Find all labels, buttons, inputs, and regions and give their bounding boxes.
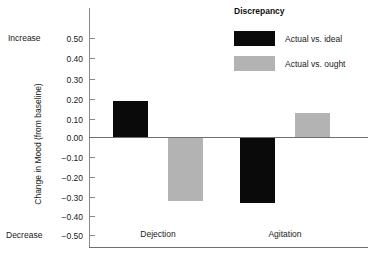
y-tick-mark-6 [90, 157, 95, 158]
x-category-label-dejection: Dejection [128, 229, 188, 239]
y-tick-label-1: 0.40 [49, 55, 83, 64]
legend-title: Discrepancy [234, 6, 285, 16]
zero-baseline [89, 137, 368, 138]
y-tick-label-8: −0.30 [49, 194, 83, 203]
bar-dejection-actual-vs-ought [168, 138, 203, 201]
mood-discrepancy-bar-chart: 0.50 0.40 0.30 0.20 0.10 0.00 −0.10 −0.2… [0, 0, 380, 262]
bottom-frame-line [89, 247, 368, 248]
y-tick-label-4: 0.10 [49, 116, 83, 125]
y-tick-label-7: −0.20 [49, 174, 83, 183]
y-axis-line [89, 8, 90, 247]
bar-agitation-actual-vs-ideal [240, 138, 275, 203]
y-tick-label-2: 0.30 [49, 76, 83, 85]
y-tick-mark-1 [90, 58, 95, 59]
x-category-label-agitation: Agitation [255, 229, 315, 239]
y-axis-tick-labels: 0.50 0.40 0.30 0.20 0.10 0.00 −0.10 −0.2… [47, 0, 83, 262]
y-tick-mark-3 [90, 99, 95, 100]
y-tick-mark-10 [90, 235, 95, 236]
bar-dejection-actual-vs-ideal [113, 101, 148, 137]
y-tick-label-3: 0.20 [49, 96, 83, 105]
legend-swatch-actual-vs-ought [234, 56, 275, 71]
y-axis-title: Change in Mood (from baseline) [33, 59, 43, 229]
legend-swatch-actual-vs-ideal [234, 31, 275, 46]
decrease-label: Decrease [6, 231, 42, 240]
legend-label-actual-vs-ideal: Actual vs. ideal [285, 34, 342, 44]
increase-label: Increase [8, 34, 41, 43]
y-tick-mark-8 [90, 197, 95, 198]
y-tick-mark-4 [90, 119, 95, 120]
legend-label-actual-vs-ought: Actual vs. ought [285, 59, 345, 69]
y-tick-mark-0 [90, 38, 95, 39]
y-tick-mark-2 [90, 79, 95, 80]
y-tick-label-5: 0.00 [49, 134, 83, 143]
y-tick-label-9: −0.40 [49, 213, 83, 222]
bar-agitation-actual-vs-ought [295, 113, 330, 137]
y-tick-mark-7 [90, 177, 95, 178]
y-tick-label-6: −0.10 [49, 154, 83, 163]
y-tick-label-0: 0.50 [49, 35, 83, 44]
y-tick-label-10: −0.50 [49, 232, 83, 241]
y-tick-mark-9 [90, 216, 95, 217]
